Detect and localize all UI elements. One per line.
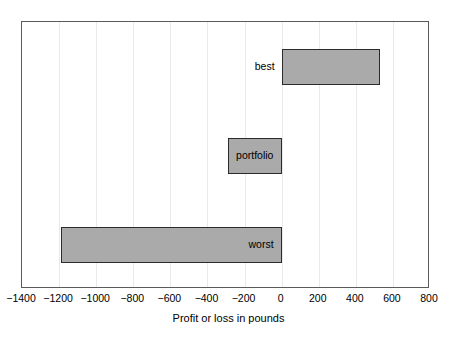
x-tick--200: −200 — [232, 291, 256, 305]
x-tick--1400: −1400 — [6, 291, 36, 305]
bar-portfolio: portfolio — [228, 138, 282, 174]
x-tick-200: 200 — [309, 291, 327, 305]
x-tick--600: −600 — [158, 291, 182, 305]
x-tick--400: −400 — [195, 291, 219, 305]
bar-label-best: best — [255, 61, 275, 72]
x-tick-0: 0 — [278, 291, 284, 305]
x-tick--1000: −1000 — [80, 291, 110, 305]
bar-label-worst: worst — [249, 239, 274, 250]
bar-label-portfolio: portfolio — [236, 150, 273, 161]
bar-worst: worst — [61, 227, 282, 263]
gridline — [59, 22, 60, 287]
x-tick-800: 800 — [420, 291, 438, 305]
x-tick--800: −800 — [120, 291, 144, 305]
x-axis-title: Profit or loss in pounds — [0, 311, 457, 325]
x-axis-tick-labels: −1400−1200−1000−800−600−400−200020040060… — [0, 291, 457, 307]
x-tick-400: 400 — [346, 291, 364, 305]
x-tick-600: 600 — [383, 291, 401, 305]
chart-figure: bestportfolioworst −1400−1200−1000−800−6… — [0, 0, 457, 340]
x-tick--1200: −1200 — [43, 291, 73, 305]
gridline — [393, 22, 394, 287]
bar-best: best — [282, 49, 380, 85]
plot-area: bestportfolioworst — [21, 21, 429, 288]
